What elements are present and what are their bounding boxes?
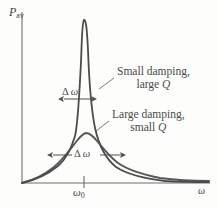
curve-small-damping	[22, 20, 209, 183]
delta-omega-wide-delta: Δ	[74, 148, 80, 159]
callout-small-damping-symbol: Q	[162, 78, 170, 90]
callout-small-damping-line1: Small damping,	[117, 65, 190, 77]
callout-large-damping-symbol: Q	[158, 121, 166, 133]
x-axis-label: ω	[198, 185, 205, 197]
delta-omega-narrow-delta: Δ	[62, 86, 68, 97]
x-tick-symbol: ω	[73, 186, 81, 198]
callout-large-damping: Large damping, small Q	[112, 108, 185, 134]
resonance-curve-figure: Pav ω0 ω Small damping, large Q Large da…	[0, 0, 217, 209]
leader-small-damping	[99, 78, 114, 89]
y-axis-label: Pav	[9, 6, 24, 20]
callout-small-damping-line2: large Q	[117, 78, 190, 91]
plot-canvas	[0, 0, 217, 209]
x-tick-subscript: 0	[81, 191, 85, 200]
x-tick-label-omega0: ω0	[73, 186, 85, 201]
callout-large-damping-prefix: small	[130, 121, 158, 133]
callout-small-damping: Small damping, large Q	[117, 65, 190, 91]
callout-large-damping-line2: small Q	[112, 121, 185, 134]
y-axis-subscript: av	[16, 11, 24, 20]
callout-large-damping-line1: Large damping,	[112, 108, 185, 120]
curve-large-damping	[22, 133, 209, 183]
leader-large-damping	[96, 121, 109, 131]
callout-small-damping-prefix: large	[136, 78, 162, 90]
delta-omega-wide-variable: ω	[83, 148, 90, 159]
delta-omega-narrow-label: Δ ω	[62, 86, 78, 98]
delta-omega-wide-label: Δ ω	[74, 148, 90, 160]
delta-omega-narrow-variable: ω	[71, 86, 78, 97]
